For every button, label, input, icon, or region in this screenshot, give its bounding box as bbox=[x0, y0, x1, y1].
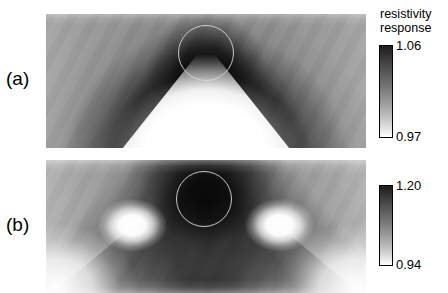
colorbar-title-line1: resistivity bbox=[380, 8, 431, 22]
colorbar-a-gradient bbox=[379, 45, 393, 138]
panel-b-inclusion-circle bbox=[176, 171, 232, 227]
panel-b-image bbox=[46, 160, 366, 293]
panel-label-a: (a) bbox=[6, 68, 29, 90]
panel-a-inclusion-circle bbox=[178, 25, 234, 81]
colorbar-b-gradient bbox=[379, 185, 393, 266]
colorbar-b-max-tick-label: 1.20 bbox=[396, 178, 421, 193]
colorbar-title-line2: response bbox=[380, 22, 431, 36]
resistivity-response-figure: (a) (b) resistivity response bbox=[0, 0, 448, 293]
colorbar-a-max-tick-label: 1.06 bbox=[396, 38, 421, 53]
colorbar-b-min-tick-label: 0.94 bbox=[396, 257, 421, 272]
panel-a-image bbox=[46, 14, 366, 148]
colorbar-a-min-tick-label: 0.97 bbox=[396, 129, 421, 144]
panel-label-b: (b) bbox=[6, 214, 29, 236]
